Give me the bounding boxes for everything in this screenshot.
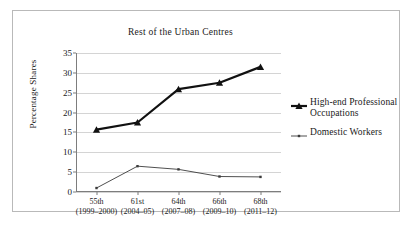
y-tick-label: 25 — [63, 88, 72, 98]
legend-label-line2: Occupations — [310, 108, 397, 119]
x-tick-label: 55th(1999–2000) — [76, 197, 117, 217]
x-tick-label: 61st(2004–05) — [121, 197, 154, 217]
legend-marker-icon — [291, 98, 307, 110]
x-tick-label: 66th(2009–10) — [203, 197, 236, 217]
x-tick-label-period: (2011–12) — [244, 207, 277, 217]
y-tick-label: 10 — [63, 147, 72, 157]
figure-frame: Rest of the Urban Centres Percentage Sha… — [12, 10, 400, 212]
x-tick-mark — [219, 192, 220, 195]
data-point-square — [177, 168, 179, 170]
data-point-square — [259, 176, 261, 178]
x-tick-mark — [260, 192, 261, 195]
legend-entry-1[interactable]: High-end ProfessionalOccupations — [291, 97, 413, 119]
x-tick-label: 64th(2007–08) — [162, 197, 195, 217]
x-tick-label-round: 64th — [162, 197, 195, 207]
chart-legend: High-end ProfessionalOccupationsDomestic… — [291, 97, 413, 148]
x-tick-label-round: 61st — [121, 197, 154, 207]
x-tick-label-period: (2007–08) — [162, 207, 195, 217]
y-tick-label: 20 — [63, 108, 72, 118]
x-tick-label-round: 66th — [203, 197, 236, 207]
series-1 — [93, 63, 264, 132]
data-point-square — [95, 187, 97, 189]
legend-marker-icon — [291, 128, 307, 140]
y-axis-title: Percentage Shares — [28, 48, 38, 140]
legend-label-line1: High-end Professional — [310, 97, 397, 108]
series-2 — [95, 165, 261, 189]
y-tick-label: 35 — [63, 48, 72, 58]
legend-label: Domestic Workers — [310, 127, 382, 138]
legend-label: High-end ProfessionalOccupations — [310, 97, 397, 119]
x-tick-label-period: (1999–2000) — [76, 207, 117, 217]
x-tick-label-period: (2009–10) — [203, 207, 236, 217]
x-tick-label-round: 55th — [76, 197, 117, 207]
x-tick-label-round: 68th — [244, 197, 277, 207]
x-tick-mark — [178, 192, 179, 195]
series-overlay — [76, 53, 281, 192]
x-tick-mark — [96, 192, 97, 195]
y-tick-label: 15 — [63, 127, 72, 137]
data-point-square — [218, 175, 220, 177]
y-tick-label: 30 — [63, 68, 72, 78]
x-tick-label: 68th(2011–12) — [244, 197, 277, 217]
series-line — [97, 67, 261, 130]
legend-label-line1: Domestic Workers — [310, 127, 382, 138]
x-tick-mark — [137, 192, 138, 195]
legend-entry-2[interactable]: Domestic Workers — [291, 127, 413, 140]
data-point-square — [136, 165, 138, 167]
data-point-square — [298, 135, 300, 137]
plot-area: 05101520253035 55th(1999–2000)61st(2004–… — [76, 53, 281, 192]
x-tick-label-period: (2004–05) — [121, 207, 154, 217]
y-tick-label: 5 — [68, 167, 73, 177]
y-tick-label: 0 — [68, 187, 73, 197]
chart-title: Rest of the Urban Centres — [73, 27, 288, 37]
